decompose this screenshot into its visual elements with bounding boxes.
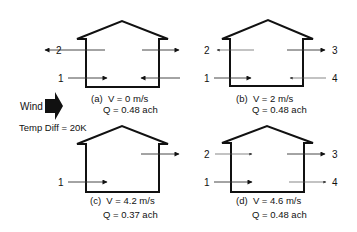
caption-ach-b: Q = 0.48 ach (252, 104, 307, 115)
temp-diff-label: Temp Diff = 20K (19, 122, 87, 133)
caption-ach-d: Q = 0.48 ach (252, 209, 307, 220)
wind-legend: Wind Temp Diff = 20K (19, 92, 87, 133)
opening-label-1-a: 1 (58, 73, 64, 84)
caption-ach-a: Q = 0.48 ach (103, 104, 158, 115)
wind-label: Wind (20, 101, 43, 112)
opening-label-3-d: 3 (332, 149, 338, 160)
opening-label-1-c: 1 (58, 177, 64, 188)
panel-a: 2 1 (a) V = 0 m/s Q = 0.48 ach (45, 21, 180, 115)
opening-label-2-a: 2 (56, 45, 62, 56)
house-outline-b (222, 20, 313, 86)
panel-d: 2 3 1 4 (d) V = 4.6 m/s Q = 0.48 ach (204, 126, 338, 220)
caption-velocity-a: (a) V = 0 m/s (91, 93, 149, 104)
opening-label-1-d: 1 (204, 177, 210, 188)
opening-label-1-b: 1 (204, 73, 210, 84)
house-outline-a (77, 21, 168, 87)
caption-velocity-d: (d) V = 4.6 m/s (236, 195, 301, 206)
caption-velocity-b: (b) V = 2 m/s (236, 93, 294, 104)
caption-ach-c: Q = 0.37 ach (103, 209, 158, 220)
wind-arrow-icon (45, 92, 63, 120)
panel-b: 2 3 1 4 (b) V = 2 m/s Q = 0.48 ach (204, 20, 338, 115)
opening-label-3-b: 3 (332, 45, 338, 56)
opening-label-2-d: 2 (204, 149, 210, 160)
opening-label-2-b: 2 (204, 45, 210, 56)
ventilation-diagram: 2 1 (a) V = 0 m/s Q = 0.48 ach 2 3 1 4 (… (0, 0, 357, 232)
panel-c: 1 (c) V = 4.2 m/s Q = 0.37 ach (58, 126, 179, 220)
opening-label-4-b: 4 (332, 73, 338, 84)
caption-velocity-c: (c) V = 4.2 m/s (90, 195, 155, 206)
opening-label-4-d: 4 (332, 177, 338, 188)
